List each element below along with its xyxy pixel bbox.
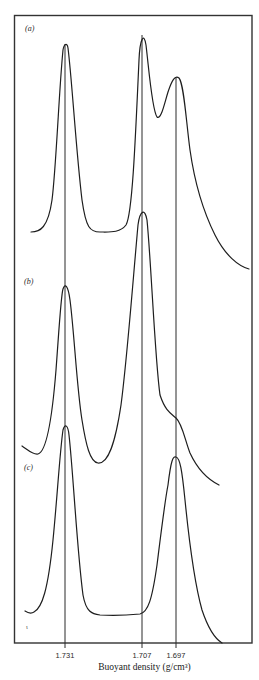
density-gradient-chart xyxy=(0,0,259,680)
panel-label-c: (c) xyxy=(24,464,33,472)
trace-a xyxy=(31,38,249,269)
trace-b xyxy=(22,212,219,485)
x-axis-title: Buoyant density (g/cm³) xyxy=(0,663,259,673)
panel-label-a: (a) xyxy=(25,25,34,33)
plot-frame xyxy=(15,16,253,644)
x-tick-1731: 1.731 xyxy=(56,652,75,660)
panel-label-b: (b) xyxy=(24,278,33,286)
x-tick-1697: 1.697 xyxy=(167,652,186,660)
x-tick-1707: 1.707 xyxy=(133,652,152,660)
stray-mark: ι xyxy=(26,624,28,631)
